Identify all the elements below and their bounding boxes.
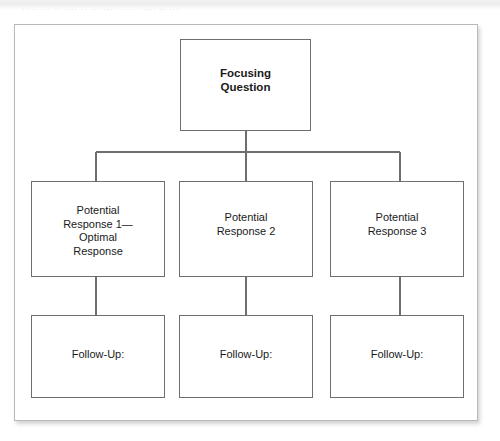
scan-artifact-text: ·· ·· ··· ·· ···· ·· ··· ···· ·· ··· ···… xyxy=(22,5,484,10)
node-potential-response-3: Potential Response 3 xyxy=(330,181,464,277)
node-potential-response-3-label: Potential Response 3 xyxy=(368,182,427,238)
node-follow-up-2: Follow-Up: xyxy=(179,315,313,398)
node-follow-up-3-label: Follow-Up: xyxy=(371,316,424,362)
node-follow-up-2-label: Follow-Up: xyxy=(220,316,273,362)
diagram-page: ·· ·· ··· ·· ···· ·· ··· ···· ·· ··· ···… xyxy=(0,0,500,441)
scan-artifact-strip: ·· ·· ··· ·· ···· ·· ··· ···· ·· ··· ···… xyxy=(0,0,500,10)
node-follow-up-3: Follow-Up: xyxy=(330,315,464,398)
node-potential-response-1-label: Potential Response 1— Optimal Response xyxy=(63,182,133,258)
node-potential-response-1: Potential Response 1— Optimal Response xyxy=(31,181,165,277)
node-follow-up-1: Follow-Up: xyxy=(31,315,165,398)
node-focusing-question: Focusing Question xyxy=(180,39,311,131)
node-follow-up-1-label: Follow-Up: xyxy=(72,316,125,362)
node-potential-response-2-label: Potential Response 2 xyxy=(217,182,276,238)
node-potential-response-2: Potential Response 2 xyxy=(179,181,313,277)
node-focusing-question-label: Focusing Question xyxy=(220,40,271,94)
